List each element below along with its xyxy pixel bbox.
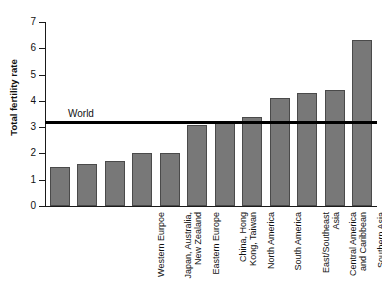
y-axis-tick bbox=[39, 180, 45, 181]
y-axis-title: Total fertility rate bbox=[8, 33, 19, 163]
x-axis-category-label: East/Southeast Asia bbox=[321, 212, 341, 304]
y-axis-tick-label: 4 bbox=[20, 96, 36, 106]
x-axis-category-label: North America bbox=[266, 212, 276, 304]
bar bbox=[270, 98, 290, 206]
bar bbox=[105, 161, 125, 206]
bar bbox=[50, 167, 70, 206]
y-axis-tick bbox=[39, 75, 45, 76]
bar bbox=[187, 125, 207, 206]
y-axis-tick bbox=[39, 206, 45, 207]
y-axis-tick-label: 7 bbox=[20, 17, 36, 27]
world-reference-line bbox=[45, 121, 377, 124]
y-axis-tick bbox=[39, 153, 45, 154]
x-axis-category-label: Central America and Caribbean bbox=[348, 212, 368, 304]
bar bbox=[297, 93, 317, 206]
x-axis-category-label: Eastern Europe bbox=[211, 212, 221, 304]
y-axis-tick bbox=[39, 48, 45, 49]
bar bbox=[160, 153, 180, 206]
y-axis-tick-label: 6 bbox=[20, 43, 36, 53]
fertility-rate-bar-chart: Total fertility rate 01234567 World West… bbox=[0, 0, 382, 306]
x-axis-category-label: Western Eurpoe bbox=[156, 212, 166, 304]
x-axis-category-label: China, Hong Kong, Taiwan bbox=[238, 212, 258, 304]
world-reference-label: World bbox=[68, 109, 94, 119]
x-axis-category-label: South America bbox=[293, 212, 303, 304]
y-axis-tick-label: 2 bbox=[20, 148, 36, 158]
plot-area bbox=[46, 22, 376, 206]
y-axis-tick bbox=[39, 101, 45, 102]
y-axis-tick-label: 1 bbox=[20, 175, 36, 185]
bar bbox=[242, 117, 262, 206]
y-axis-tick bbox=[39, 127, 45, 128]
x-axis-category-label: Southern Asia bbox=[376, 212, 382, 304]
bar bbox=[215, 123, 235, 206]
bar bbox=[132, 153, 152, 206]
bar bbox=[325, 90, 345, 206]
y-axis-tick-label: 0 bbox=[20, 201, 36, 211]
y-axis-tick bbox=[39, 22, 45, 23]
x-axis-line bbox=[45, 206, 377, 207]
y-axis-tick-label: 3 bbox=[20, 122, 36, 132]
x-axis-category-label: Japan, Australia, New Zealand bbox=[183, 212, 203, 304]
bar bbox=[77, 164, 97, 206]
y-axis-tick-label: 5 bbox=[20, 70, 36, 80]
